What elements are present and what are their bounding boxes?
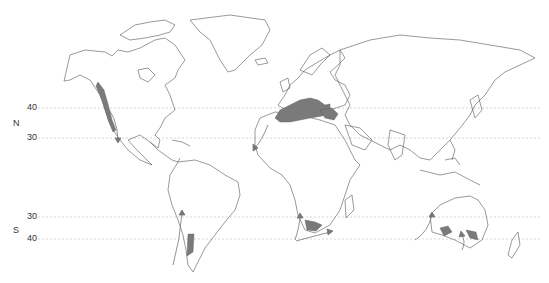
south-atlantic-arrow [296,232,330,241]
ocean-current-arrows [103,103,465,265]
south-atlantic-arrowhead [327,229,333,235]
region-south-australia [466,230,478,240]
new-zealand [508,232,520,258]
south-australia-arrow [462,235,464,250]
region-mediterranean-east [320,108,338,120]
asia-outline [335,35,535,160]
west-australia-arrowhead [429,212,435,217]
hemisphere-label-north: N [13,118,20,128]
africa-outline [255,112,360,233]
south-america-outline [168,160,240,272]
lat-label-30s: 30 [27,211,37,221]
british-isles [280,78,290,92]
region-southwest-australia [440,226,452,236]
continents [64,15,535,272]
caribbean-islands [172,140,190,146]
mediterranean-climate-regions [96,82,478,256]
arabian-peninsula [345,125,372,150]
southeast-asia-islands [420,140,480,185]
australia-outline [430,196,488,248]
region-california [96,82,116,132]
region-central-chile [187,234,194,256]
lat-label-40s: 40 [27,233,37,243]
hudson-bay [138,68,155,82]
iceland [255,58,268,65]
lat-label-30n: 30 [27,132,37,142]
north-america-outline [64,38,185,165]
world-map [0,0,549,283]
hemisphere-label-south: S [13,225,19,235]
humboldt-arrowhead [179,210,185,215]
lat-label-40n: 40 [27,102,37,112]
region-south-africa-cape [305,220,322,231]
greenland-outline [190,15,270,72]
benguela-current-arrow [295,215,300,240]
canadian-arctic-islands [120,20,175,40]
japan [470,95,482,118]
india [388,130,405,160]
south-australia-arrowhead [459,231,465,237]
west-australia-current-arrow [415,215,432,240]
madagascar [345,195,354,218]
canary-current-arrow [255,125,268,148]
